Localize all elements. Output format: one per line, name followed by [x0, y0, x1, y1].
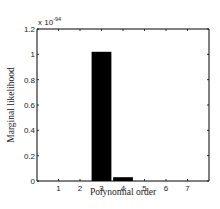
bar-3 [92, 52, 112, 181]
y-tick-label: 0 [31, 177, 36, 186]
y-tick-label: 0.6 [24, 101, 36, 110]
bar-chart: 1234567 00.20.40.60.811.2 x 10-94 Polyno… [0, 0, 220, 209]
y-tick-label: 0.8 [24, 76, 36, 85]
x-tick-label: 7 [185, 184, 190, 193]
plot-area [37, 29, 209, 181]
y-axis-label: Marginal likelihood [6, 67, 16, 143]
y-tick-label: 0.4 [24, 126, 36, 135]
x-tick-label: 2 [78, 184, 83, 193]
y-tick-label: 1.2 [24, 25, 36, 34]
x-tick-label: 1 [56, 184, 61, 193]
y-tick-label: 1 [31, 50, 36, 59]
x-axis-label: Polynomial order [90, 187, 157, 197]
y-tick-label: 0.2 [24, 152, 36, 161]
x-tick-label: 6 [164, 184, 169, 193]
y-axis-multiplier: x 10-94 [38, 16, 61, 27]
